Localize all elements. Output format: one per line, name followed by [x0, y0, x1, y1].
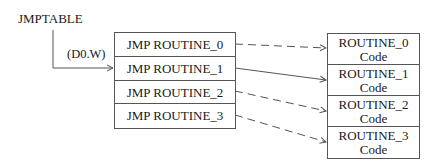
jump-entry-0: JMP ROUTINE_0 — [115, 33, 235, 57]
routine-2: ROUTINE_2 Code — [328, 96, 419, 127]
connection-2-line — [235, 91, 326, 111]
routine-sub: Code — [328, 112, 419, 126]
routines-table: ROUTINE_0 Code ROUTINE_1 Code ROUTINE_2 … — [327, 33, 420, 159]
jump-entry-2: JMP ROUTINE_2 — [115, 81, 235, 105]
routine-name: ROUTINE_0 — [328, 36, 419, 50]
routine-sub: Code — [328, 50, 419, 64]
jump-table: JMP ROUTINE_0 JMP ROUTINE_1 JMP ROUTINE_… — [114, 32, 236, 129]
pointer-line — [53, 30, 113, 68]
routine-name: ROUTINE_2 — [328, 98, 419, 112]
connection-1-line — [235, 68, 326, 80]
routine-3: ROUTINE_3 Code — [328, 127, 419, 158]
jump-entry-3: JMP ROUTINE_3 — [115, 104, 235, 128]
connection-3-line — [235, 115, 326, 142]
connection-0-line — [235, 44, 326, 48]
routine-1: ROUTINE_1 Code — [328, 65, 419, 96]
routine-name: ROUTINE_3 — [328, 129, 419, 143]
jump-entry-1: JMP ROUTINE_1 — [115, 57, 235, 81]
routine-sub: Code — [328, 143, 419, 157]
routine-0: ROUTINE_0 Code — [328, 34, 419, 65]
routine-sub: Code — [328, 81, 419, 95]
routine-name: ROUTINE_1 — [328, 67, 419, 81]
